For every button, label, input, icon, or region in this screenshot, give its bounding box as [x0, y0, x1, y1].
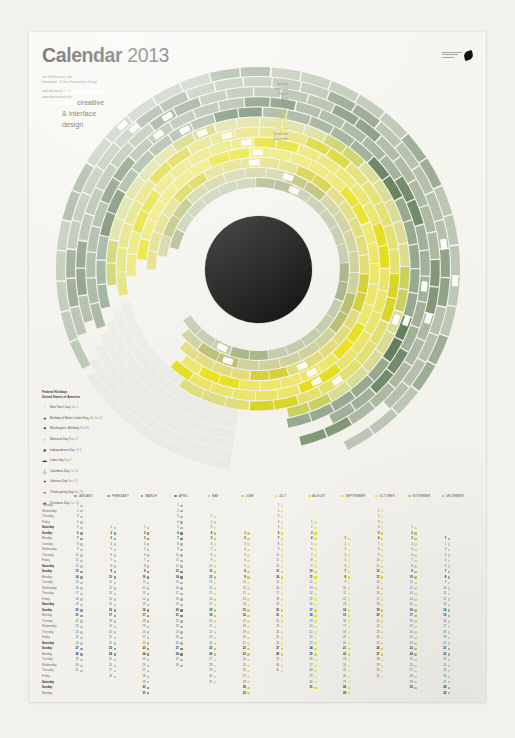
day-color-swatch	[147, 648, 149, 650]
day-color-swatch	[448, 653, 450, 655]
day-color-swatch	[281, 670, 283, 672]
weekday-label: Monday	[42, 691, 74, 697]
day-color-swatch	[214, 527, 216, 529]
day-color-swatch	[114, 659, 116, 661]
day-color-swatch	[80, 560, 82, 562]
day-color-swatch	[348, 571, 350, 573]
day-color-swatch	[147, 549, 149, 551]
month-key-september[interactable]: SEPTEMBER	[341, 494, 374, 498]
wheel-day-cell	[259, 359, 280, 370]
day-color-swatch	[247, 687, 249, 689]
day-color-swatch	[147, 543, 149, 545]
day-color-swatch	[348, 637, 350, 639]
day-color-swatch	[348, 593, 350, 595]
day-color-swatch	[281, 692, 283, 694]
month-key-may[interactable]: MAY	[208, 494, 241, 498]
day-color-swatch	[281, 505, 283, 507]
month-key-february[interactable]: FEBRUARY	[107, 494, 140, 498]
day-color-swatch	[214, 659, 216, 661]
day-color-swatch	[414, 527, 416, 529]
day-color-swatch	[80, 565, 82, 567]
month-key-label: AUGUST	[312, 494, 325, 498]
day-color-swatch	[147, 587, 149, 589]
wheel-day-cell	[66, 250, 76, 278]
month-color-dot-icon	[275, 495, 278, 498]
day-color-swatch	[214, 532, 216, 534]
day-color-swatch	[214, 648, 216, 650]
day-cell-empty	[107, 691, 140, 697]
month-key-january[interactable]: JANUARY	[74, 494, 107, 498]
day-number: 30	[174, 663, 179, 669]
day-color-swatch	[80, 620, 82, 622]
day-color-swatch	[348, 653, 350, 655]
day-color-swatch	[381, 543, 383, 545]
month-column-september: 1234567891011121314151617181920212223242…	[341, 503, 374, 696]
day-color-swatch	[348, 543, 350, 545]
center-hub	[205, 216, 312, 323]
day-color-swatch	[147, 571, 149, 573]
day-number: 31	[375, 674, 380, 680]
legend-item-label: Washington's Birthday Feb 18	[50, 426, 89, 430]
legend-item-7: ✦Veterans Day Nov 11	[42, 479, 138, 484]
day-color-swatch	[348, 582, 350, 584]
day-color-swatch	[214, 516, 216, 518]
month-key-march[interactable]: MARCH	[141, 494, 174, 498]
day-color-swatch	[314, 571, 316, 573]
day-color-swatch	[114, 598, 116, 600]
day-cell-empty	[375, 691, 408, 697]
wheel-day-cell	[398, 244, 409, 266]
month-key-december[interactable]: DECEMBER	[442, 494, 475, 498]
day-color-swatch	[448, 642, 450, 644]
day-color-swatch	[348, 549, 350, 551]
day-color-swatch	[348, 505, 350, 507]
legend-item-label: Memorial Day May 27	[50, 437, 78, 441]
month-color-dot-icon	[341, 495, 344, 498]
day-color-swatch	[114, 631, 116, 633]
day-color-swatch	[348, 687, 350, 689]
day-cell: 29	[442, 691, 475, 697]
day-color-swatch	[448, 516, 450, 518]
month-key-october[interactable]: OCTOBER	[375, 494, 408, 498]
day-color-swatch	[247, 653, 249, 655]
day-color-swatch	[414, 653, 416, 655]
day-color-swatch	[114, 681, 116, 683]
day-color-swatch	[381, 659, 383, 661]
month-key-august[interactable]: AUGUST	[308, 494, 341, 498]
day-color-swatch	[247, 565, 249, 567]
day-color-swatch	[381, 532, 383, 534]
month-key-july[interactable]: JULY	[275, 494, 308, 498]
month-color-dot-icon	[174, 495, 177, 498]
month-key-november[interactable]: NOVEMBER	[408, 494, 441, 498]
day-color-swatch	[281, 521, 283, 523]
month-key-june[interactable]: JUNE	[241, 494, 274, 498]
wheel-day-cell	[232, 389, 254, 400]
day-color-swatch	[147, 532, 149, 534]
day-color-swatch	[414, 687, 416, 689]
day-color-swatch	[448, 637, 450, 639]
day-color-swatch	[414, 582, 416, 584]
day-color-swatch	[314, 576, 316, 578]
day-number: 29	[442, 691, 447, 697]
legend-item-label: Veterans Day Nov 11	[50, 479, 77, 483]
day-color-swatch	[314, 516, 316, 518]
day-color-swatch	[314, 604, 316, 606]
legend-item-5: ▬Labor Day Sep 2	[42, 458, 138, 463]
day-color-swatch	[348, 631, 350, 633]
linear-calendar-table: JANUARYFEBRUARYMARCHAPRILMAYJUNEJULYAUGU…	[42, 494, 475, 692]
day-color-swatch	[281, 582, 283, 584]
day-color-swatch	[281, 642, 283, 644]
day-color-swatch	[80, 642, 82, 644]
wheel-day-cell	[260, 158, 279, 169]
day-color-swatch	[80, 554, 82, 556]
day-color-swatch	[348, 670, 350, 672]
day-color-swatch	[247, 598, 249, 600]
star-icon: ★	[42, 416, 47, 421]
day-color-swatch	[448, 681, 450, 683]
day-color-swatch	[414, 521, 416, 523]
month-key-april[interactable]: APRIL	[174, 494, 207, 498]
day-color-swatch	[448, 676, 450, 678]
table-grid: TuesdayWednesdayThursdayFridaySaturdaySu…	[42, 503, 475, 696]
day-number: 31	[74, 668, 79, 674]
day-color-swatch	[281, 604, 283, 606]
day-color-swatch	[247, 615, 249, 617]
